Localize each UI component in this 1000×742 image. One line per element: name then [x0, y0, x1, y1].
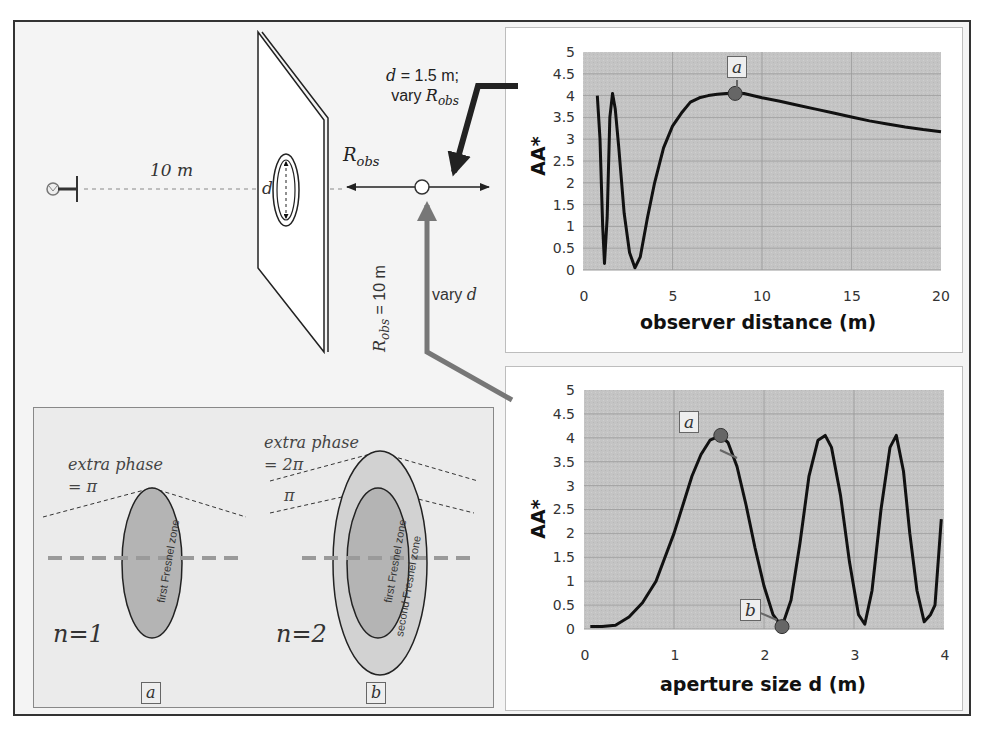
ytick: 0 [541, 262, 575, 278]
ytick: 1.5 [541, 549, 575, 565]
ytick: 2 [541, 175, 575, 191]
vary-d-label: vary d [432, 285, 477, 304]
panel-a-phase-line1: extra phase [68, 454, 163, 476]
panel-b-phase-line1: extra phase [264, 432, 359, 454]
top-chart-ylabel: AA* [527, 136, 549, 175]
panel-b-n-label: n=2 [276, 620, 327, 648]
xtick: 4 [930, 647, 960, 663]
bottom-annotation-value: = 10 m [371, 265, 388, 319]
ytick: 0.5 [541, 240, 575, 256]
bottom-annotation-var: R [370, 340, 389, 352]
ytick: 4.5 [541, 406, 575, 422]
top-annotation-robs: R [426, 86, 438, 105]
ytick: 0 [541, 621, 575, 637]
xtick: 5 [658, 288, 688, 304]
top-annotation-vary: vary [391, 87, 426, 104]
top-annotation-var: d [386, 66, 396, 85]
ytick: 3 [541, 478, 575, 494]
ytick: 5 [541, 44, 575, 60]
bottom-annotation-sub: obs [378, 319, 392, 340]
ytick: 3.5 [541, 454, 575, 470]
ytick: 4.5 [541, 66, 575, 82]
aperture-d-label: d [262, 178, 273, 198]
ytick: 1 [541, 573, 575, 589]
xtick: 0 [569, 288, 599, 304]
top-annotation: d = 1.5 m; vary Robs [386, 66, 459, 111]
top-annotation-robs-sub: obs [438, 94, 459, 108]
ytick: 3.5 [541, 109, 575, 125]
robs-sub: obs [357, 154, 380, 169]
panel-b-phase-line2: = 2π [264, 454, 359, 476]
vary-var: d [467, 285, 477, 304]
panel-a-phase-line2: = π [68, 476, 163, 498]
panel-a-n-label: n=1 [53, 620, 104, 648]
bottom-annotation-robs: Robs = 10 m [370, 265, 392, 352]
chart-observer-distance [583, 52, 941, 270]
chart-aperture-size [584, 390, 944, 634]
figure-graphics [0, 0, 1000, 742]
top-chart-xlabel: observer distance (m) [640, 311, 876, 333]
observer-point [415, 180, 429, 194]
panel-a-tag: a [141, 682, 161, 704]
robs-var: R [343, 144, 357, 165]
xtick: 0 [570, 647, 600, 663]
robs-label: Robs [343, 144, 379, 169]
panel-b-tag: b [366, 682, 386, 704]
bottom-chart-callout-a: a [679, 411, 699, 433]
source-icon [47, 176, 77, 202]
ytick: 1 [541, 218, 575, 234]
bottom-chart-ylabel: AA* [527, 499, 549, 538]
fresnel-panel-a [43, 488, 246, 638]
ytick: 0.5 [541, 597, 575, 613]
panel-a-phase: extra phase = π [68, 454, 163, 498]
xtick: 3 [840, 647, 870, 663]
top-annotation-value: = 1.5 m; [396, 67, 459, 84]
bottom-chart-callout-b: b [740, 599, 761, 621]
xtick: 15 [837, 288, 867, 304]
ytick: 4 [541, 88, 575, 104]
panel-b-pi-label: π [284, 486, 295, 505]
top-chart-callout-a: a [727, 56, 747, 78]
bottom-chart-xlabel: aperture size d (m) [660, 673, 866, 695]
ytick: 5 [541, 382, 575, 398]
ytick: 4 [541, 430, 575, 446]
xtick: 1 [660, 647, 690, 663]
ytick: 1.5 [541, 197, 575, 213]
xtick: 10 [747, 288, 777, 304]
arrow-to-top-chart [454, 86, 518, 172]
vary-prefix: vary [432, 286, 467, 303]
xtick: 20 [926, 288, 956, 304]
source-distance-label: 10 m [150, 160, 193, 180]
panel-b-phase: extra phase = 2π [264, 432, 359, 476]
xtick: 2 [750, 647, 780, 663]
